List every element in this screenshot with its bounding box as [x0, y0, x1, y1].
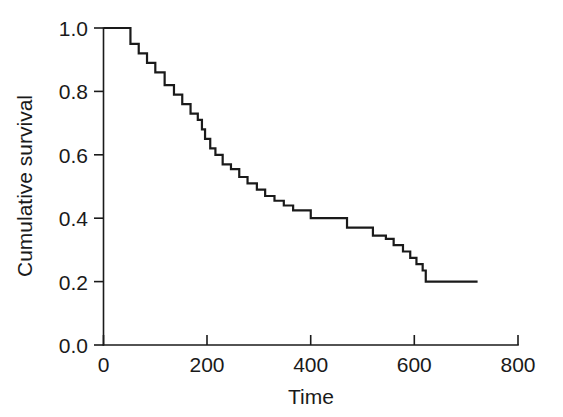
y-tick-label-1.0: 1.0	[59, 17, 88, 40]
survival-step-curve	[104, 28, 478, 282]
x-tick-label-400: 400	[293, 353, 328, 376]
x-tick-label-200: 200	[189, 353, 224, 376]
x-tick-marks	[104, 335, 519, 345]
x-axis-title: Time	[288, 385, 334, 408]
y-axis-title: Cumulative survival	[13, 95, 36, 277]
y-tick-marks	[94, 28, 104, 345]
y-tick-label-0.4: 0.4	[59, 207, 89, 230]
y-tick-labels: 1.0 0.8 0.6 0.4 0.2 0.0	[59, 17, 89, 357]
x-tick-label-0: 0	[98, 353, 110, 376]
survival-chart-figure: 1.0 0.8 0.6 0.4 0.2 0.0 0 200 400 600 80…	[0, 0, 563, 417]
x-tick-label-600: 600	[397, 353, 432, 376]
y-tick-label-0.6: 0.6	[59, 144, 88, 167]
x-tick-labels: 0 200 400 600 800	[98, 353, 536, 376]
plot-canvas: 1.0 0.8 0.6 0.4 0.2 0.0 0 200 400 600 80…	[0, 0, 563, 417]
y-tick-label-0.0: 0.0	[59, 334, 88, 357]
x-tick-label-800: 800	[500, 353, 535, 376]
y-tick-label-0.8: 0.8	[59, 80, 88, 103]
y-tick-label-0.2: 0.2	[59, 271, 88, 294]
